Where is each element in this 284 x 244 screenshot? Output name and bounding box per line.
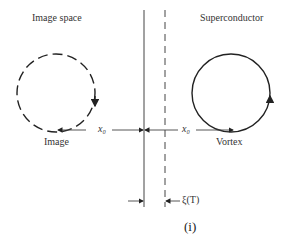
image-vortex-circle xyxy=(17,54,95,132)
real-vortex-circle xyxy=(192,54,270,132)
coherence-length-label: ξ(T) xyxy=(182,194,199,205)
image-label: Image xyxy=(44,136,69,147)
diagram-canvas xyxy=(0,0,284,244)
x0-right-label: x₀ xyxy=(182,123,190,134)
superconductor-label: Superconductor xyxy=(200,12,263,23)
vortex-label: Vortex xyxy=(216,136,242,147)
figure-caption: (i) xyxy=(184,219,196,235)
x0-left-label: x₀ xyxy=(98,123,106,134)
image-space-label: Image space xyxy=(32,12,82,23)
